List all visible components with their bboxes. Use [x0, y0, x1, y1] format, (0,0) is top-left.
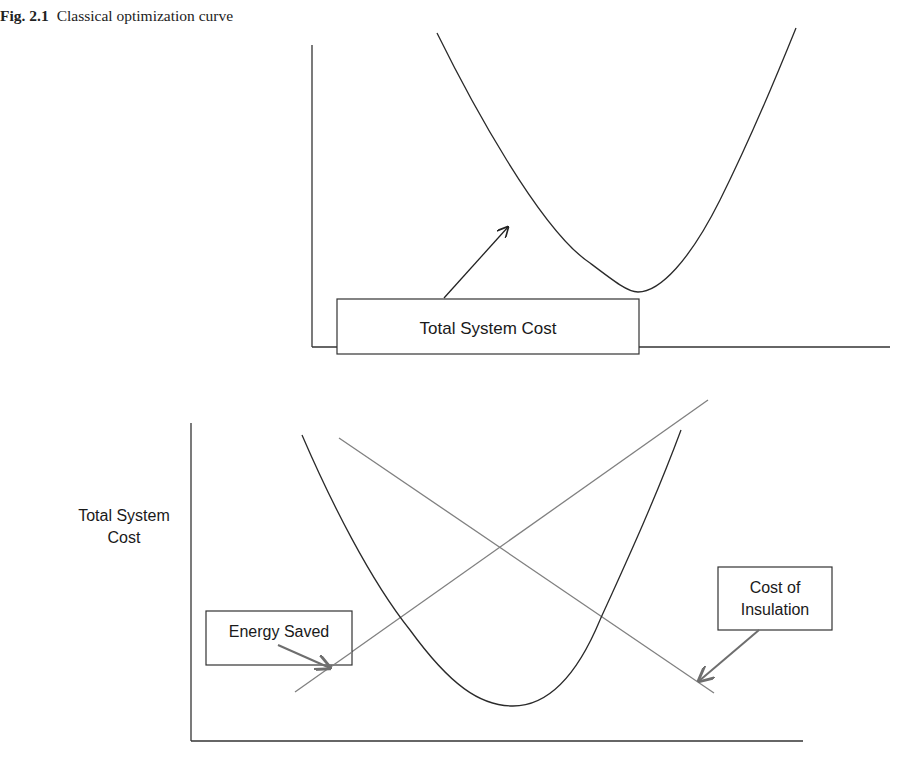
figure-canvas: Total System Cost Total System Cost Ener…: [0, 0, 910, 768]
cost-of-insulation-arrow: [699, 630, 759, 681]
bottom-chart: Total System Cost Energy Saved Cost of I…: [78, 400, 832, 741]
bottom-y-axis-label-line2: Cost: [108, 529, 141, 546]
bottom-total-cost-curve: [302, 430, 681, 706]
energy-saved-callout: Energy Saved: [206, 611, 352, 665]
top-chart: Total System Cost: [312, 28, 890, 354]
cost-of-insulation-line: [339, 438, 714, 693]
top-total-cost-curve: [437, 28, 796, 292]
cost-of-insulation-label-line1: Cost of: [750, 579, 801, 596]
cost-of-insulation-callout: Cost of Insulation: [718, 567, 832, 630]
energy-saved-line: [295, 400, 708, 692]
top-callout-label: Total System Cost: [420, 319, 557, 338]
energy-saved-label: Energy Saved: [229, 623, 330, 640]
cost-of-insulation-label-line2: Insulation: [741, 601, 810, 618]
top-callout-box: Total System Cost: [337, 299, 639, 354]
top-callout-arrow: [444, 227, 508, 298]
bottom-y-axis-label-line1: Total System: [78, 507, 170, 524]
